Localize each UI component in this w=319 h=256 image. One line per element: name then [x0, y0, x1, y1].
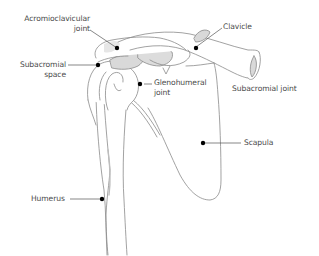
shoulder-anatomy-diagram: [0, 0, 319, 256]
marker-clavicle: [194, 46, 198, 50]
label-text: Clavicle: [223, 22, 252, 31]
marker-subacromial-space: [96, 63, 100, 67]
label-text: Scapula: [244, 138, 273, 147]
label-text: Humerus: [31, 194, 65, 203]
label-acromioclavicular-joint: Acromioclavicular joint: [14, 14, 90, 33]
label-line: space: [10, 70, 66, 80]
coracoid-tip: [163, 66, 170, 74]
clavicle-bump-cartilage: [194, 30, 210, 42]
label-scapula: Scapula: [244, 138, 273, 148]
humeral-head-left-edge: [88, 100, 96, 125]
label-line: Glenohumeral: [154, 78, 207, 88]
label-clavicle: Clavicle: [223, 22, 252, 32]
label-line: joint: [14, 24, 90, 34]
label-text: Subacromial joint: [232, 84, 297, 93]
marker-glenohumeral: [138, 82, 142, 86]
marker-acromioclavicular: [115, 46, 119, 50]
label-subacromial-joint: Subacromial joint: [232, 84, 297, 94]
humerus-shaft-outline-right: [123, 98, 127, 255]
label-subacromial-space: Subacromial space: [10, 60, 66, 79]
marker-scapula: [201, 141, 205, 145]
label-humerus: Humerus: [31, 194, 65, 204]
label-line: joint: [154, 88, 207, 98]
label-glenohumeral-joint: Glenohumeral joint: [154, 78, 207, 97]
label-line: Subacromial: [10, 60, 66, 70]
scapula-superior-border: [186, 63, 214, 66]
marker-humerus: [100, 197, 104, 201]
label-line: Acromioclavicular: [14, 14, 90, 24]
humerus-inner-line: [104, 100, 110, 255]
